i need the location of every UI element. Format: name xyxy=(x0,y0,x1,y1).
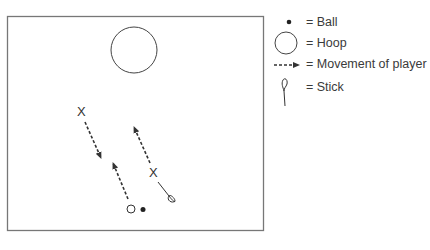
stick-icon xyxy=(158,182,175,202)
court-diagram: X X xyxy=(0,0,430,250)
player-x-marker: X xyxy=(77,104,86,119)
hoop-icon xyxy=(111,27,157,73)
court-boundary xyxy=(8,17,264,231)
legend-ball-icon xyxy=(287,20,292,25)
legend-hoop-icon xyxy=(275,32,297,54)
legend-label-stick: = Stick xyxy=(306,80,344,94)
movement-arrow-icon xyxy=(85,122,101,158)
movement-arrow-icon xyxy=(113,163,128,199)
player-o-marker xyxy=(127,205,135,213)
legend-label-hoop: = Hoop xyxy=(306,36,347,50)
movement-arrow-icon xyxy=(134,127,150,163)
ball-icon xyxy=(141,207,146,212)
legend-label-ball: = Ball xyxy=(306,15,338,29)
legend-label-movement: = Movement of player xyxy=(306,57,427,71)
player-x-marker: X xyxy=(149,165,158,180)
legend-stick-icon xyxy=(282,79,287,106)
